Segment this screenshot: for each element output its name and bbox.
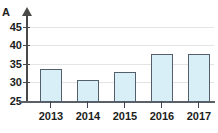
- bar-2014: [77, 80, 99, 102]
- xtick-mark-2013: [50, 101, 51, 108]
- xtick-label-2013: 2013: [32, 110, 70, 122]
- bar-2015: [114, 72, 136, 102]
- xtick-mark-2016: [161, 101, 162, 108]
- bar-chart: 45 40 35 30 25 A 2013 2014 2015 2016 201…: [0, 0, 218, 15]
- xtick-label-2014: 2014: [69, 110, 107, 122]
- bar-2013: [40, 69, 62, 102]
- bar-2016: [151, 54, 173, 102]
- xtick-mark-2017: [198, 101, 199, 108]
- xtick-mark-2014: [87, 101, 88, 108]
- bar-2017: [188, 54, 210, 102]
- plot-area: 45 40 35 30 25 A 2013 2014 2015 2016 201…: [0, 0, 218, 133]
- xtick-label-2017: 2017: [180, 110, 218, 122]
- xtick-label-2015: 2015: [106, 110, 144, 122]
- xtick-mark-2015: [124, 101, 125, 108]
- xtick-label-2016: 2016: [143, 110, 181, 122]
